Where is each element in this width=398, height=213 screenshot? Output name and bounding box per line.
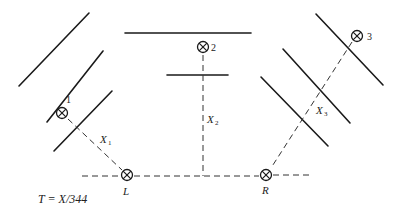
- path-x3: [271, 42, 352, 168]
- circled-cross-icon: [198, 42, 209, 53]
- source-3: 3: [352, 31, 373, 43]
- listener-L-label: L: [122, 185, 129, 197]
- source-3-label: 3: [367, 31, 372, 42]
- circled-cross-icon: [352, 31, 363, 42]
- circled-cross-icon: [261, 170, 272, 181]
- source-1-label: 1: [66, 94, 71, 105]
- formula: T = X/344: [38, 192, 87, 206]
- x2-sub: 2: [215, 119, 219, 127]
- circled-cross-icon: [122, 170, 133, 181]
- x3-sub: 3: [324, 110, 328, 118]
- right-wall-outer: [316, 14, 383, 85]
- distance-label-x3: X 3: [315, 104, 328, 118]
- x1-base: X: [99, 133, 108, 145]
- diagram: 1 2 3 L R: [0, 0, 398, 213]
- source-2-label: 2: [211, 42, 216, 53]
- distance-label-x1: X 1: [99, 133, 112, 147]
- distance-label-x2: X 2: [206, 113, 219, 127]
- path-x1: [68, 119, 122, 170]
- listener-L: L: [122, 170, 133, 198]
- left-wall-middle: [47, 51, 103, 122]
- source-2: 2: [198, 42, 217, 54]
- listener-R: R: [261, 170, 272, 197]
- left-wall-outer: [19, 13, 89, 86]
- x1-sub: 1: [108, 139, 112, 147]
- circled-cross-icon: [57, 108, 68, 119]
- listener-R-label: R: [261, 184, 269, 196]
- x2-base: X: [206, 113, 215, 125]
- x3-base: X: [315, 104, 324, 116]
